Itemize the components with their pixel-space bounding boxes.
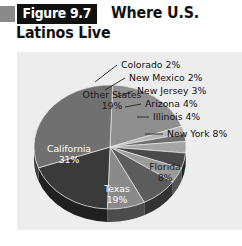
chart-panel: Other States19%Florida8%Texas19%Californ… <box>17 52 242 230</box>
pie-value-texas: 19% <box>107 194 128 205</box>
pie-label-california: California <box>47 143 91 154</box>
figure-number-badge: Figure 9.7 <box>17 4 97 24</box>
pie-label-illinois: Illinois 4% <box>153 111 200 122</box>
pie-label-new-york: New York 8% <box>167 128 227 139</box>
figure-container: Figure 9.7 Where U.S. Latinos Live Other… <box>0 0 242 246</box>
figure-title-block: Figure 9.7 Where U.S. Latinos Live <box>17 4 239 43</box>
pie-value-florida: 8% <box>158 172 173 183</box>
pie-label-new-jersey: New Jersey 3% <box>137 85 206 96</box>
pie-label-arizona: Arizona 4% <box>145 98 198 109</box>
corner-decoration <box>0 6 15 22</box>
page-title-continued: Latinos Live <box>16 24 110 43</box>
title-first-line: Figure 9.7 Where U.S. <box>17 4 239 24</box>
page-title: Where U.S. <box>111 4 199 23</box>
pie-label-florida: Florida <box>149 161 181 172</box>
pie-label-other-states: Other States <box>83 89 142 100</box>
leader-line-colorado <box>95 65 117 82</box>
pie-label-texas: Texas <box>103 183 130 194</box>
pie-label-new-mexico: New Mexico 2% <box>129 72 203 83</box>
pie-label-colorado: Colorado 2% <box>121 59 180 70</box>
pie-value-california: 31% <box>59 154 80 165</box>
pie-value-other-states: 19% <box>102 100 123 111</box>
pie-chart: Other States19%Florida8%Texas19%Californ… <box>17 52 242 230</box>
